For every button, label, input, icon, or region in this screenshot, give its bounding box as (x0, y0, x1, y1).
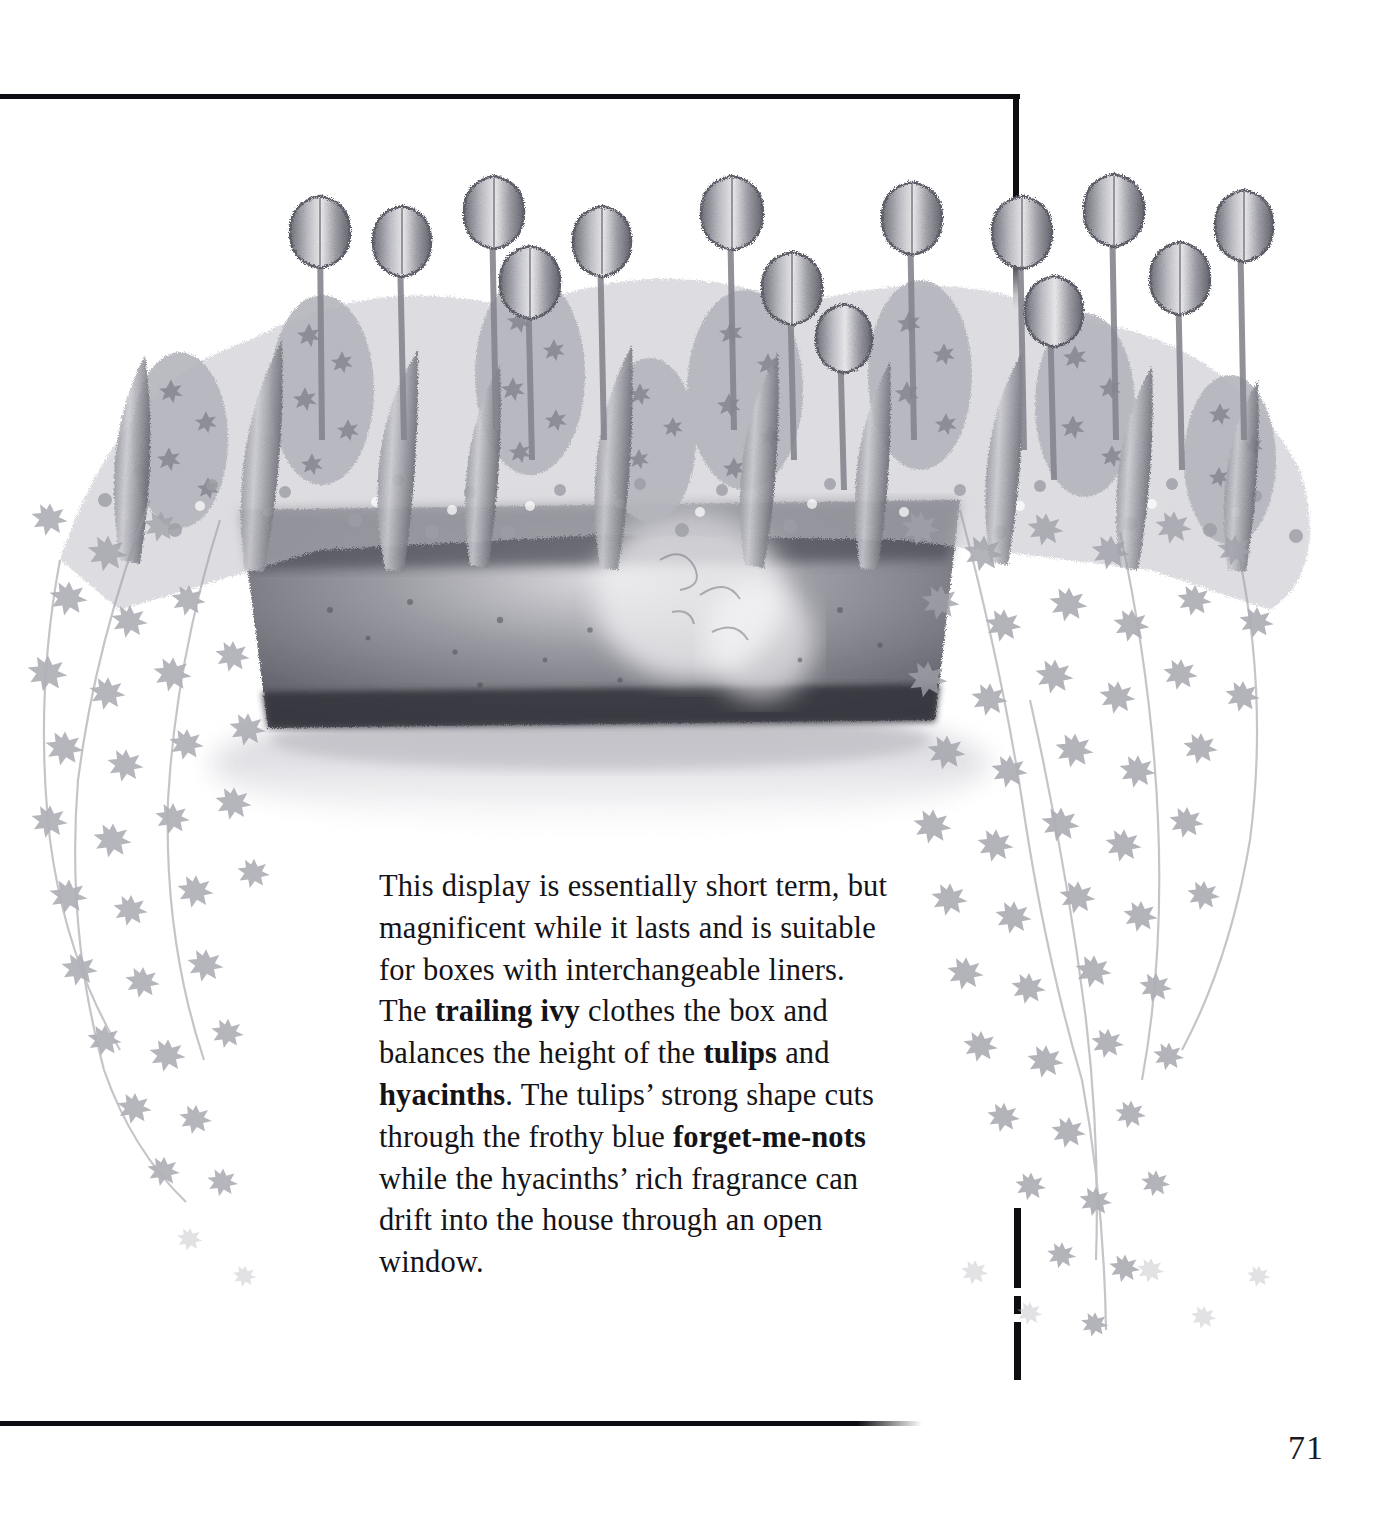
frame-rule-bottom-right-vertical-upper (1014, 1208, 1021, 1288)
window-box-container (240, 500, 960, 728)
forget-me-nots (98, 464, 1303, 543)
caption-text-run: and (777, 1036, 830, 1070)
caption-bold-term: hyacinths (379, 1078, 505, 1112)
cast-shadow (210, 703, 990, 827)
book-page: This display is essentially short term, … (0, 0, 1387, 1513)
page-number: 71 (1288, 1429, 1324, 1467)
caption-bold-term: tulips (703, 1036, 777, 1070)
tulips (290, 174, 1273, 490)
frame-rule-bottom (0, 1421, 922, 1426)
frame-rule-bottom-right-vertical-mid (1014, 1296, 1021, 1314)
trailing-ivy-right (902, 510, 1274, 1337)
hyacinths (132, 275, 1276, 545)
caption-text-run: while the hyacinths’ rich fragrance can … (379, 1162, 858, 1280)
bulb-foliage (114, 340, 1259, 572)
frame-rule-bottom-right-vertical-lower (1014, 1322, 1021, 1380)
flower-mass-backdrop (60, 279, 1310, 610)
frame-rule-top (0, 94, 1020, 99)
frame-rule-top-right-vertical (1013, 94, 1019, 309)
trailing-ivy-left (28, 500, 270, 1202)
display-description-text: This display is essentially short term, … (379, 866, 899, 1284)
caption-bold-term: trailing ivy (435, 994, 580, 1028)
caption-bold-term: forget-me-nots (673, 1120, 866, 1154)
